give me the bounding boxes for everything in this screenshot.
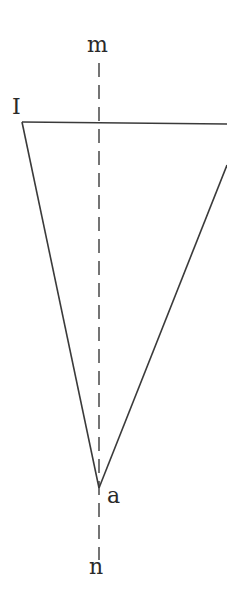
- label-I: I: [12, 96, 21, 118]
- triangle-right-edge: [99, 165, 227, 488]
- label-a: a: [107, 485, 120, 507]
- triangle-left-edge: [22, 122, 99, 488]
- label-n: n: [89, 556, 103, 578]
- triangle-top-edge: [22, 122, 227, 124]
- label-m: m: [87, 34, 108, 56]
